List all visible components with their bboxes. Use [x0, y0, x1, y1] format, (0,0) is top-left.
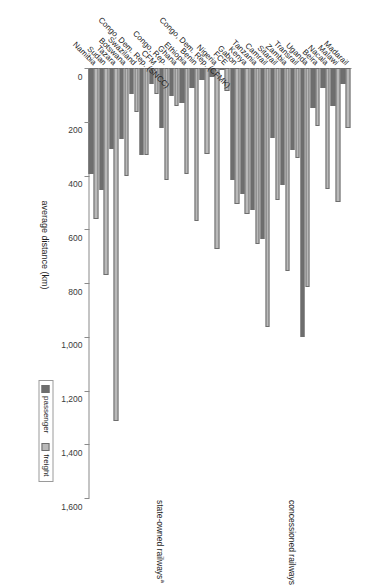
- bar-group: [320, 68, 330, 498]
- bar-freight: [244, 68, 248, 214]
- bar-group: [118, 68, 128, 498]
- bar-freight: [265, 68, 269, 327]
- legend-item-passenger: passenger: [41, 385, 50, 433]
- bar-passenger: [340, 68, 344, 84]
- bar-passenger: [240, 68, 244, 194]
- bar-freight: [275, 68, 279, 200]
- bar-passenger: [300, 68, 304, 337]
- chart-legend: passenger freight: [38, 380, 53, 482]
- axis-tick-label: 400: [68, 179, 82, 189]
- bar-passenger: [109, 68, 113, 149]
- bar-group: [209, 68, 219, 498]
- bar-passenger: [139, 68, 143, 155]
- legend-item-freight: freight: [41, 443, 50, 476]
- bar-group: [219, 68, 229, 498]
- bar-passenger: [320, 68, 324, 88]
- bar-passenger: [189, 68, 193, 88]
- bar-group: [98, 68, 108, 498]
- bar-group: [249, 68, 259, 498]
- bar-group: [330, 68, 340, 498]
- axis-tick: [84, 283, 89, 284]
- plot-region: 02004006008001,0001,2001,4001,600: [89, 68, 351, 498]
- bar-group: [149, 68, 159, 498]
- bar-passenger: [129, 68, 133, 94]
- bar-group: [310, 68, 320, 498]
- bar-freight: [234, 68, 238, 204]
- rotated-chart-canvas: 02004006008001,0001,2001,4001,600 Namibi…: [0, 0, 365, 586]
- bar-freight: [305, 68, 309, 287]
- bar-freight: [325, 68, 329, 189]
- bar-freight: [124, 68, 128, 176]
- bar-passenger: [260, 68, 264, 239]
- bar-group: [290, 68, 300, 498]
- bar-freight: [184, 68, 188, 174]
- bar-freight: [345, 68, 349, 128]
- axis-tick: [84, 176, 89, 177]
- bar-passenger: [280, 68, 284, 185]
- bar-passenger: [250, 68, 254, 210]
- bar-group: [189, 68, 199, 498]
- axis-tick-label: 1,600: [61, 502, 82, 512]
- bar-passenger: [119, 68, 123, 139]
- bar-freight: [214, 68, 218, 249]
- axis-tick: [84, 229, 89, 230]
- axis-tick: [84, 391, 89, 392]
- legend-swatch-freight: [42, 443, 50, 451]
- bar-freight: [144, 68, 148, 155]
- bar-passenger: [290, 68, 294, 150]
- axis-tick-label: 1,200: [61, 394, 82, 404]
- bar-rows: [89, 68, 351, 498]
- bar-freight: [285, 68, 289, 271]
- bar-freight: [93, 68, 97, 219]
- bar-passenger: [310, 68, 314, 108]
- legend-swatch-passenger: [42, 385, 50, 393]
- chart-area: 02004006008001,0001,2001,4001,600 Namibi…: [0, 0, 365, 586]
- bar-freight: [113, 68, 117, 421]
- axis-tick-label: 1,400: [61, 448, 82, 458]
- axis-tick: [84, 122, 89, 123]
- axis-tick-label: 800: [68, 287, 82, 297]
- bar-group: [239, 68, 249, 498]
- bar-group: [179, 68, 189, 498]
- bar-group: [128, 68, 138, 498]
- axis-tick-label: 600: [68, 233, 82, 243]
- bar-group: [159, 68, 169, 498]
- bar-freight: [194, 68, 198, 221]
- y-axis-title: average distance (km): [39, 170, 49, 320]
- bar-group: [169, 68, 179, 498]
- bar-freight: [255, 68, 259, 244]
- bar-freight: [335, 68, 339, 202]
- bar-passenger: [99, 68, 103, 190]
- bar-group: [108, 68, 118, 498]
- bar-group: [259, 68, 269, 498]
- bar-freight: [204, 68, 208, 154]
- bar-group: [340, 68, 350, 498]
- bar-group: [138, 68, 148, 498]
- axis-tick-label: 0: [77, 72, 82, 82]
- axis-tick: [84, 337, 89, 338]
- bar-group: [229, 68, 239, 498]
- bar-group: [88, 68, 98, 498]
- bar-freight: [103, 68, 107, 275]
- bar-group: [269, 68, 279, 498]
- axis-tick: [84, 68, 89, 69]
- legend-label-freight: freight: [41, 454, 50, 476]
- axis-tick: [84, 444, 89, 445]
- bar-group: [300, 68, 310, 498]
- bar-passenger: [330, 68, 334, 106]
- legend-label-passenger: passenger: [41, 396, 50, 433]
- bar-group: [199, 68, 209, 498]
- axis-tick-label: 1,000: [61, 340, 82, 350]
- bar-passenger: [179, 68, 183, 103]
- bar-freight: [315, 68, 319, 126]
- bar-freight: [174, 68, 178, 106]
- group-label-1: concessioned railways: [286, 500, 296, 585]
- bar-freight: [295, 68, 299, 158]
- bar-passenger: [270, 68, 274, 138]
- bar-passenger: [199, 68, 203, 80]
- bar-passenger: [220, 68, 224, 70]
- bar-freight: [134, 68, 138, 112]
- axis-tick-label: 200: [68, 125, 82, 135]
- bar-group: [280, 68, 290, 498]
- group-label-0: state-owned railwaysa: [154, 500, 165, 583]
